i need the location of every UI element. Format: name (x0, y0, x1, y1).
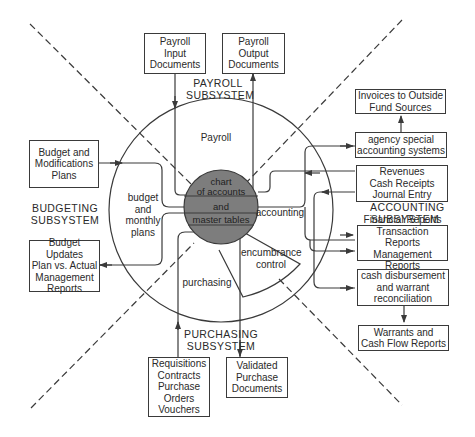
box-budget-updates: Budget Updates Plan vs. Actual Managemen… (29, 240, 100, 292)
box-budget-updates-l3: Management (35, 272, 93, 284)
sector-budget: budget and monthly plans (118, 192, 168, 238)
box-invoices: Invoices to Outside Fund Sources (355, 89, 446, 114)
box-revenues: Revenues Cash Receipts Journal Entry (356, 165, 448, 202)
box-cash-disb-l1: cash disbursement (361, 270, 445, 282)
box-payroll-output: Payroll Output Documents (222, 33, 285, 74)
box-financial-reports: Financial Reports Transaction Reports Ma… (357, 225, 448, 261)
subsystem-accounting-l1: ACCOUNTING (370, 202, 440, 214)
box-budget-modifications: Budget and Modifications Plans (29, 140, 99, 188)
box-agency-l1: agency special (368, 134, 434, 146)
box-budget-updates-l4: Reports (47, 283, 82, 295)
core-label-4: master tables (186, 214, 256, 226)
box-warrants-l1: Warrants and (374, 327, 434, 339)
sector-budget-l2: and (118, 204, 168, 216)
subsystem-purchasing: PURCHASING SUBSYSTEM (183, 329, 259, 352)
sector-encumbrance-l1: encumbrance (241, 247, 301, 259)
box-revenues-l3: Journal Entry (373, 189, 432, 201)
box-warrants: Warrants and Cash Flow Reports (358, 325, 449, 351)
box-validated-l1: Validated (237, 360, 278, 372)
box-revenues-l1: Revenues (379, 166, 424, 178)
box-financial-l2: Transaction Reports (358, 226, 447, 249)
sector-budget-l1: budget (118, 192, 168, 204)
box-payroll-input-l2: Input (164, 48, 186, 60)
box-payroll-input-l3: Documents (150, 59, 201, 71)
box-payroll-input-l1: Payroll (160, 36, 191, 48)
financial-system-diagram: chart of accounts and master tables Payr… (0, 0, 475, 437)
box-payroll-output-l2: Output (238, 48, 268, 60)
box-budget-updates-l2: Plan vs. Actual (32, 260, 98, 272)
box-agency-l2: accounting systems (357, 145, 445, 157)
box-budget-mod-l1: Budget and (38, 147, 89, 159)
box-budget-updates-l1: Budget Updates (30, 237, 99, 260)
sector-accounting: accounting (255, 207, 305, 219)
box-validated-l2: Purchase (236, 372, 278, 384)
box-cash-disbursement: cash disbursement and warrant reconcilia… (357, 269, 449, 306)
box-financial-l1: Financial Reports (364, 214, 442, 226)
subsystem-budgeting-l2: SUBSYSTEM (30, 215, 100, 227)
sector-payroll: Payroll (196, 132, 236, 144)
subsystem-budgeting-l1: BUDGETING (30, 203, 100, 215)
box-budget-mod-l2: Modifications (35, 158, 93, 170)
box-agency-special: agency special accounting systems (355, 132, 447, 158)
sector-budget-l3: monthly (118, 215, 168, 227)
box-validated-purchase: Validated Purchase Documents (226, 357, 288, 398)
subsystem-purchasing-l2: SUBSYSTEM (183, 341, 259, 353)
core-label-2: of accounts (188, 186, 254, 198)
box-invoices-l1: Invoices to Outside (358, 90, 443, 102)
subsystem-payroll: PAYROLL SUBSYSTEM (186, 78, 250, 101)
box-requisitions: Requisitions Contracts Purchase Orders V… (148, 357, 210, 417)
sector-encumbrance-l2: control (241, 259, 301, 271)
box-requisitions-l3: Purchase (158, 381, 200, 393)
subsystem-budgeting: BUDGETING SUBSYSTEM (30, 203, 100, 226)
box-validated-l3: Documents (232, 383, 283, 395)
subsystem-payroll-l2: SUBSYSTEM (186, 90, 250, 102)
box-requisitions-l2: Contracts (158, 370, 201, 382)
box-requisitions-l4: Orders (164, 393, 195, 405)
box-cash-disb-l2: and warrant (377, 282, 430, 294)
box-invoices-l2: Fund Sources (369, 102, 431, 114)
box-cash-disb-l3: reconciliation (374, 293, 432, 305)
box-payroll-output-l3: Documents (228, 59, 279, 71)
box-revenues-l2: Cash Receipts (369, 178, 434, 190)
sector-purchasing: purchasing (182, 277, 232, 289)
sector-encumbrance: encumbrance control (241, 247, 301, 270)
box-budget-mod-l3: Plans (51, 170, 76, 182)
box-payroll-input: Payroll Input Documents (144, 33, 206, 74)
box-requisitions-l1: Requisitions (152, 358, 206, 370)
core-label-3: and (206, 201, 236, 213)
box-payroll-output-l1: Payroll (238, 36, 269, 48)
box-requisitions-l5: Vouchers (158, 404, 200, 416)
subsystem-purchasing-l1: PURCHASING (183, 329, 259, 341)
box-warrants-l2: Cash Flow Reports (361, 338, 446, 350)
sector-budget-l4: plans (118, 227, 168, 239)
subsystem-payroll-l1: PAYROLL (186, 78, 250, 90)
